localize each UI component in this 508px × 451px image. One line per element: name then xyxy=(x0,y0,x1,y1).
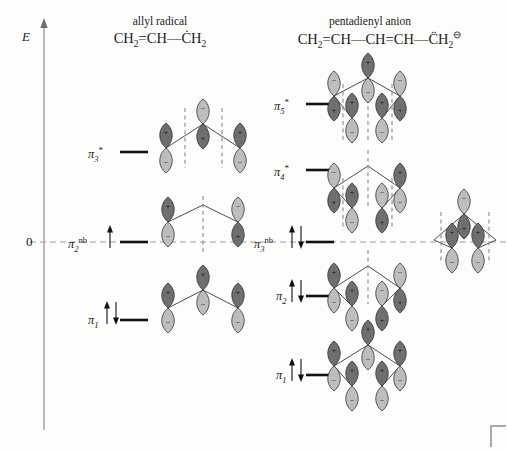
electron-arrow-up xyxy=(107,225,113,248)
svg-text:+: + xyxy=(380,316,385,325)
zero-energy-label: 0 xyxy=(26,235,33,248)
mo-label-pentadienyl-pi4star: π4* xyxy=(274,164,289,181)
svg-text:−: − xyxy=(450,258,455,267)
svg-text:−: − xyxy=(380,188,385,197)
svg-text:−: − xyxy=(366,355,371,364)
column-formula-allyl: CH2=CH—ĊH2 xyxy=(70,31,250,49)
svg-text:−: − xyxy=(350,218,355,227)
column-title-allyl: allyl radical xyxy=(105,16,215,28)
svg-text:+: + xyxy=(398,168,403,177)
diagram-canvas: .lobeD{fill:#6f6f6f;stroke:#2e2e2e;strok… xyxy=(0,0,508,451)
electron-arrow-pair xyxy=(289,225,304,249)
svg-text:+: + xyxy=(166,202,171,211)
mo-label-pentadienyl-pi1: π1 xyxy=(276,369,287,384)
mo-label-allyl-pi1: π1 xyxy=(88,314,99,329)
svg-text:−: − xyxy=(350,396,355,405)
column-title-pentadienyl: pentadienyl anion xyxy=(300,16,440,28)
svg-text:+: + xyxy=(201,134,206,143)
svg-text:+: + xyxy=(380,218,385,227)
svg-text:+: + xyxy=(164,128,169,137)
svg-text:+: + xyxy=(238,128,243,137)
mo-label-pentadienyl-pi2: π2 xyxy=(276,290,287,305)
svg-text:+: + xyxy=(350,188,355,197)
svg-text:+: + xyxy=(380,98,385,107)
svg-text:−: − xyxy=(332,298,337,307)
mo-label-pentadienyl-pi5star: π5* xyxy=(274,98,289,115)
svg-text:−: − xyxy=(398,76,403,85)
mo-diagram-figure: .lobeD{fill:#6f6f6f;stroke:#2e2e2e;strok… xyxy=(0,0,508,451)
svg-text:+: + xyxy=(398,346,403,355)
svg-text:−: − xyxy=(462,194,467,203)
electron-arrow-pair xyxy=(289,279,304,303)
svg-text:−: − xyxy=(380,396,385,405)
level-pentadienyl-pi5star: −+ +− +− +− −+ xyxy=(306,53,406,143)
page-corner-mark xyxy=(490,425,506,447)
svg-text:+: + xyxy=(398,298,403,307)
svg-text:−: − xyxy=(238,158,243,167)
svg-text:+: + xyxy=(350,286,355,295)
svg-text:−: − xyxy=(332,376,337,385)
svg-text:−: − xyxy=(350,316,355,325)
energy-axis xyxy=(40,18,47,430)
svg-text:−: − xyxy=(332,168,337,177)
svg-text:+: + xyxy=(236,232,241,241)
electron-arrow-pair xyxy=(289,358,304,382)
svg-text:−: − xyxy=(398,198,403,207)
level-pentadienyl-pi4star: −+ +− −+ +− xyxy=(306,150,406,233)
svg-text:+: + xyxy=(398,106,403,115)
svg-text:−: − xyxy=(332,76,337,85)
svg-text:+: + xyxy=(462,224,467,233)
electron-arrow-pair xyxy=(104,301,119,325)
svg-text:+: + xyxy=(332,198,337,207)
svg-text:+: + xyxy=(166,288,171,297)
svg-text:−: − xyxy=(166,232,171,241)
svg-text:−: − xyxy=(380,128,385,137)
svg-text:−: − xyxy=(236,318,241,327)
svg-text:−: − xyxy=(201,104,206,113)
svg-text:−: − xyxy=(236,202,241,211)
level-pentadienyl-pi2: +− +− −+ −+ xyxy=(289,250,406,331)
svg-text:+: + xyxy=(332,268,337,277)
energy-axis-label: E xyxy=(22,30,30,43)
svg-text:+: + xyxy=(350,366,355,375)
svg-text:−: − xyxy=(398,268,403,277)
level-allyl-pi2nb: +− −+ xyxy=(107,196,244,252)
svg-text:+: + xyxy=(476,228,481,237)
svg-text:+: + xyxy=(350,98,355,107)
svg-text:+: + xyxy=(366,58,371,67)
column-formula-pentadienyl: CH2=CH—CH=CH—C̈H2⊖ xyxy=(272,31,487,50)
svg-text:+: + xyxy=(332,346,337,355)
svg-text:−: − xyxy=(201,300,206,309)
svg-text:−: − xyxy=(476,258,481,267)
svg-text:−: − xyxy=(380,286,385,295)
svg-text:−: − xyxy=(166,318,171,327)
mo-label-allyl-pi2nb: π2nb xyxy=(68,236,87,253)
svg-text:−: − xyxy=(398,376,403,385)
svg-text:+: + xyxy=(332,106,337,115)
svg-text:+: + xyxy=(450,228,455,237)
level-allyl-pi3star: +− −+ +− xyxy=(120,99,246,173)
svg-text:+: + xyxy=(201,270,206,279)
mo-label-allyl-pi3star: π3* xyxy=(88,146,103,163)
svg-text:+: + xyxy=(236,288,241,297)
svg-text:−: − xyxy=(366,88,371,97)
svg-text:−: − xyxy=(350,128,355,137)
svg-text:+: + xyxy=(366,325,371,334)
svg-text:+: + xyxy=(380,366,385,375)
mo-label-pentadienyl-pi3nb: π3nb xyxy=(254,236,273,253)
level-pentadienyl-pi1: +− +− +− +− +− xyxy=(289,320,406,411)
level-allyl-pi1: +− +− +− xyxy=(104,265,244,333)
svg-text:−: − xyxy=(164,158,169,167)
